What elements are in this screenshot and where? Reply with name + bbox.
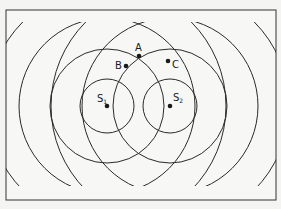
point-a-dot	[137, 54, 142, 59]
label-c: C	[172, 59, 179, 70]
point-c-dot	[166, 59, 171, 64]
label-a: A	[135, 42, 142, 53]
interference-diagram: A B C S1 S2	[0, 0, 281, 209]
frame	[6, 10, 276, 200]
source-s2-dot	[168, 104, 173, 109]
label-b: B	[115, 60, 122, 71]
point-b-dot	[124, 64, 129, 69]
